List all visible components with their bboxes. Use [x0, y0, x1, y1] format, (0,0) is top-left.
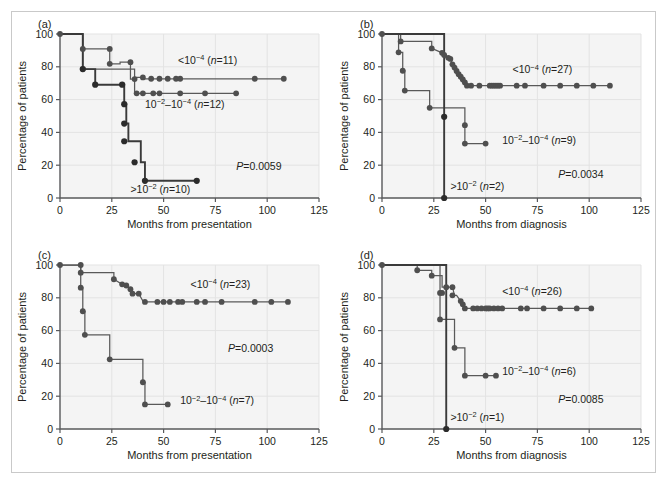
svg-text:40: 40	[363, 126, 375, 138]
svg-text:Months from presentation: Months from presentation	[127, 449, 252, 461]
svg-text:75: 75	[532, 435, 544, 447]
panel-b: 0204060801000255075100125Months from dia…	[334, 12, 656, 243]
svg-text:(a): (a)	[38, 18, 51, 30]
svg-text:50: 50	[158, 204, 170, 216]
svg-text:Percentage of patients: Percentage of patients	[16, 60, 28, 171]
svg-text:Percentage of patients: Percentage of patients	[16, 291, 28, 402]
svg-text:Percentage of patients: Percentage of patients	[338, 60, 350, 171]
svg-text:0: 0	[369, 192, 375, 204]
svg-text:Months from diagnosis: Months from diagnosis	[456, 218, 567, 230]
svg-text:75: 75	[210, 204, 222, 216]
svg-text:0: 0	[379, 204, 385, 216]
svg-text:20: 20	[41, 390, 53, 402]
svg-text:50: 50	[480, 435, 492, 447]
svg-text:125: 125	[310, 435, 328, 447]
panel-a-chart: 0204060801000255075100125Months from pre…	[12, 12, 334, 243]
svg-text:60: 60	[363, 93, 375, 105]
panel-a: 0204060801000255075100125Months from pre…	[12, 12, 334, 243]
svg-text:40: 40	[41, 126, 53, 138]
svg-text:>10−2 (n=10): >10−2 (n=10)	[130, 182, 190, 195]
svg-text:0: 0	[57, 204, 63, 216]
svg-text:P=0.0034: P=0.0034	[558, 168, 603, 180]
panel-c-plot-area: 0204060801000255075100125Months from pre…	[16, 249, 328, 461]
panel-b-chart: 0204060801000255075100125Months from dia…	[334, 12, 656, 243]
svg-text:75: 75	[532, 204, 544, 216]
svg-text:125: 125	[632, 435, 650, 447]
svg-text:60: 60	[41, 93, 53, 105]
svg-text:<10−4 (n=11): <10−4 (n=11)	[178, 53, 237, 66]
svg-text:P=0.0059: P=0.0059	[236, 160, 281, 172]
svg-text:80: 80	[41, 60, 53, 72]
svg-text:(c): (c)	[38, 249, 51, 261]
svg-text:Months from diagnosis: Months from diagnosis	[456, 449, 567, 461]
panel-d-plot-area: 0204060801000255075100125Months from dia…	[338, 249, 650, 461]
svg-text:10−2–10−4 (n=6): 10−2–10−4 (n=6)	[502, 364, 576, 377]
svg-text:0: 0	[57, 435, 63, 447]
svg-text:80: 80	[41, 291, 53, 303]
svg-text:Months from presentation: Months from presentation	[127, 218, 252, 230]
panel-a-plot-area: 0204060801000255075100125Months from pre…	[16, 18, 328, 230]
svg-text:80: 80	[363, 60, 375, 72]
svg-text:50: 50	[158, 435, 170, 447]
svg-text:>10−2 (n=2): >10−2 (n=2)	[450, 179, 504, 192]
svg-text:0: 0	[369, 423, 375, 435]
panel-d: 0204060801000255075100125Months from dia…	[334, 243, 656, 474]
svg-text:Percentage of patients: Percentage of patients	[338, 291, 350, 402]
svg-text:60: 60	[41, 324, 53, 336]
svg-text:25: 25	[428, 435, 440, 447]
svg-text:0: 0	[47, 192, 53, 204]
svg-text:P=0.0003: P=0.0003	[228, 342, 273, 354]
svg-text:40: 40	[41, 357, 53, 369]
svg-text:40: 40	[363, 357, 375, 369]
figure-frame: 0204060801000255075100125Months from pre…	[11, 11, 656, 473]
svg-text:(d): (d)	[360, 249, 373, 261]
svg-text:25: 25	[428, 204, 440, 216]
svg-text:75: 75	[210, 435, 222, 447]
panel-d-chart: 0204060801000255075100125Months from dia…	[334, 243, 656, 474]
panel-c-chart: 0204060801000255075100125Months from pre…	[12, 243, 334, 474]
svg-text:100: 100	[580, 435, 598, 447]
svg-text:100: 100	[258, 435, 276, 447]
svg-text:<10−4 (n=26): <10−4 (n=26)	[502, 284, 562, 297]
svg-text:80: 80	[363, 291, 375, 303]
svg-text:125: 125	[632, 204, 650, 216]
svg-text:125: 125	[310, 204, 328, 216]
svg-text:25: 25	[106, 435, 118, 447]
svg-text:20: 20	[363, 390, 375, 402]
svg-text:(b): (b)	[360, 18, 373, 30]
svg-text:P=0.0085: P=0.0085	[558, 393, 603, 405]
svg-text:20: 20	[41, 159, 53, 171]
svg-text:0: 0	[47, 423, 53, 435]
panel-b-plot-area: 0204060801000255075100125Months from dia…	[338, 18, 650, 230]
svg-text:>10−2 (n=1): >10−2 (n=1)	[450, 410, 504, 423]
svg-text:<10−4 (n=27): <10−4 (n=27)	[513, 63, 573, 76]
svg-text:20: 20	[363, 159, 375, 171]
svg-text:<10−4 (n=23): <10−4 (n=23)	[191, 277, 251, 290]
svg-text:100: 100	[258, 204, 276, 216]
svg-text:60: 60	[363, 324, 375, 336]
svg-text:25: 25	[106, 204, 118, 216]
svg-text:0: 0	[379, 435, 385, 447]
svg-text:100: 100	[580, 204, 598, 216]
panel-c: 0204060801000255075100125Months from pre…	[12, 243, 334, 474]
svg-text:50: 50	[480, 204, 492, 216]
svg-text:10−2–10−4 (n=7): 10−2–10−4 (n=7)	[180, 394, 254, 407]
svg-text:10−2–10−4 (n=9): 10−2–10−4 (n=9)	[502, 133, 576, 146]
